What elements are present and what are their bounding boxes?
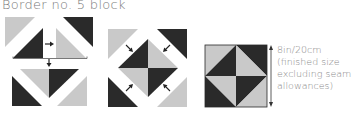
- arrow-diagonal-icon: [126, 45, 133, 52]
- arrow-diagonal-icon: [126, 84, 133, 91]
- dimension-note-line: (finished size: [277, 56, 351, 68]
- arrow-down-icon: [47, 59, 52, 67]
- finished-block: [205, 45, 267, 107]
- arrow-diagonal-icon: [163, 45, 170, 52]
- step-2-assembly: [108, 29, 187, 107]
- dimension-note-line: allowances): [277, 80, 351, 92]
- arrow-diagonal-icon: [163, 84, 170, 91]
- arrow-right-icon: [45, 42, 54, 47]
- dimension-note-line: excluding seam: [277, 68, 351, 80]
- dimension-note-line: 8in/20cm: [277, 44, 351, 56]
- dimension-note: 8in/20cm (finished size excluding seam a…: [277, 44, 351, 92]
- step-1-assembly: [5, 17, 93, 106]
- dimension-arrow-icon: [269, 45, 273, 107]
